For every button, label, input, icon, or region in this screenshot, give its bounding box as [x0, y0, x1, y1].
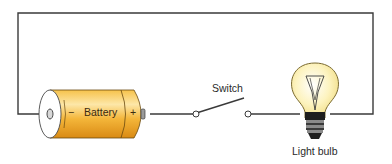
switch-label: Switch [212, 82, 243, 94]
battery-label: Battery [84, 106, 117, 118]
switch [193, 98, 251, 117]
battery-negative-symbol: − [68, 106, 74, 118]
light-bulb-label: Light bulb [292, 145, 338, 157]
circuit-diagram: − Battery + [0, 0, 392, 164]
battery-positive-symbol: + [130, 106, 136, 118]
light-bulb [292, 63, 339, 139]
